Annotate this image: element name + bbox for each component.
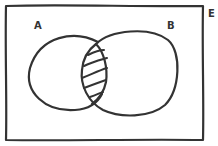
set-a-label: A xyxy=(34,20,42,31)
venn-diagram: A B E xyxy=(0,0,218,146)
set-b-label: B xyxy=(167,20,175,31)
universe-label: E xyxy=(208,8,215,19)
